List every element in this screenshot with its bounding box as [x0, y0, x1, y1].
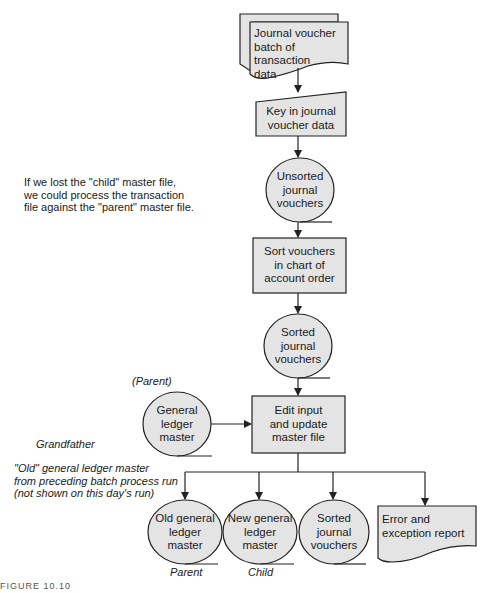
- label-line: master: [148, 539, 222, 553]
- node-sorted-vouchers-1: Sorted journal vouchers: [264, 326, 332, 367]
- node-key-in: Key in journal voucher data: [256, 105, 346, 132]
- label-line: Error and: [382, 513, 476, 527]
- label-line: General: [143, 404, 211, 418]
- label-line: Key in journal: [256, 105, 346, 119]
- label-line: vouchers: [264, 353, 332, 367]
- label-line: Old general: [148, 512, 222, 526]
- parent-top-label: (Parent): [132, 375, 172, 388]
- label-line: Sorted: [299, 512, 369, 526]
- label-line: journal: [266, 184, 334, 198]
- label-line: master file: [252, 431, 345, 445]
- note-line: If we lost the "child" master file,: [24, 176, 194, 189]
- node-sort-vouchers: Sort vouchers in chart of account order: [253, 245, 346, 286]
- note-line: file against the "parent" master file.: [24, 201, 194, 214]
- label-line: data: [254, 68, 348, 82]
- label-line: ledger: [143, 418, 211, 432]
- label-line: Journal voucher: [254, 27, 348, 41]
- label-line: and update: [252, 418, 345, 432]
- note-line: from preceding batch process run: [14, 475, 178, 488]
- label-line: master: [143, 431, 211, 445]
- flowchart-canvas: [0, 0, 493, 593]
- node-sorted-vouchers-2: Sorted journal vouchers: [299, 512, 369, 553]
- node-old-gl-master: Old general ledger master: [148, 512, 222, 553]
- note-line: we could process the transaction: [24, 189, 194, 202]
- grandfather-label: Grandfather: [36, 438, 95, 451]
- node-new-gl-master: New general ledger master: [223, 512, 297, 553]
- node-unsorted-vouchers: Unsorted journal vouchers: [266, 170, 334, 211]
- label-line: vouchers: [266, 197, 334, 211]
- label-line: in chart of: [253, 259, 346, 273]
- label-line: Unsorted: [266, 170, 334, 184]
- child-backup-note: If we lost the "child" master file, we c…: [24, 176, 194, 214]
- label-line: Sorted: [264, 326, 332, 340]
- label-line: ledger: [223, 526, 297, 540]
- label-line: account order: [253, 272, 346, 286]
- label-line: exception report: [382, 527, 476, 541]
- parent-bottom-label: Parent: [170, 566, 202, 579]
- label-line: voucher data: [256, 119, 346, 133]
- label-line: New general: [223, 512, 297, 526]
- label-line: journal: [264, 340, 332, 354]
- note-line: "Old" general ledger master: [14, 462, 178, 475]
- label-line: master: [223, 539, 297, 553]
- node-error-report: Error and exception report: [382, 513, 476, 540]
- note-line: (not shown on this day's run): [14, 487, 178, 500]
- label-line: batch of transaction: [254, 41, 348, 68]
- label-line: journal: [299, 526, 369, 540]
- figure-caption: FIGURE 10.10: [0, 581, 71, 591]
- node-general-ledger-master: General ledger master: [143, 404, 211, 445]
- label-line: ledger: [148, 526, 222, 540]
- child-bottom-label: Child: [248, 566, 273, 579]
- old-master-note: "Old" general ledger master from precedi…: [14, 462, 178, 500]
- node-journal-voucher-batch: Journal voucher batch of transaction dat…: [254, 27, 348, 81]
- label-line: Sort vouchers: [253, 245, 346, 259]
- label-line: Edit input: [252, 404, 345, 418]
- label-line: vouchers: [299, 539, 369, 553]
- node-edit-update: Edit input and update master file: [252, 404, 345, 445]
